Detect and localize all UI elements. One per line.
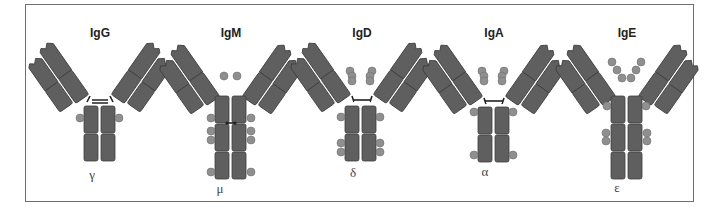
- fab-left: [23, 40, 89, 114]
- carbohydrate-beads: [478, 67, 508, 85]
- label-ige: IgE: [618, 26, 637, 40]
- fab-right: [505, 42, 571, 116]
- label-iga: IgA: [484, 26, 504, 40]
- carbohydrate-beads: [608, 58, 645, 82]
- carbohydrate-beads: [602, 102, 651, 145]
- label-igd: IgD: [352, 26, 372, 40]
- fab-left: [154, 42, 220, 116]
- carbohydrate-beads: [470, 108, 517, 159]
- fc-region: [84, 106, 115, 161]
- carbohydrate-beads: [337, 113, 384, 156]
- label-igg: IgG: [90, 26, 110, 40]
- heavy-chain-gamma: γ: [88, 167, 95, 182]
- fc-region: [611, 96, 642, 179]
- carbohydrate-bead: [76, 114, 84, 122]
- heavy-chain-delta: δ: [350, 165, 356, 180]
- antibody-igd: IgD δ: [285, 26, 439, 180]
- hinge-disulfide: [87, 96, 113, 103]
- fc-region: [215, 96, 246, 179]
- heavy-chain-alpha: α: [482, 164, 489, 179]
- fc-region: [345, 106, 376, 161]
- antibody-ige: IgE ε: [550, 26, 704, 195]
- hinge-disulfide: [484, 98, 504, 104]
- immunoglobulin-diagram: IgG γ IgM μ: [0, 0, 719, 214]
- fab-right: [242, 42, 308, 116]
- carbohydrate-beads: [346, 67, 376, 85]
- antibody-igg: IgG γ: [23, 26, 177, 182]
- antibody-igm: IgM μ: [154, 26, 308, 196]
- hinge-disulfide: [352, 96, 372, 102]
- label-igm: IgM: [221, 26, 242, 40]
- carbohydrate-bead: [220, 72, 228, 80]
- heavy-chain-epsilon: ε: [614, 180, 620, 195]
- fc-region: [478, 107, 509, 162]
- carbohydrate-bead: [233, 72, 241, 80]
- antibody-iga: IgA α: [417, 26, 571, 179]
- carbohydrate-bead: [115, 114, 123, 122]
- fab-left: [417, 42, 483, 116]
- heavy-chain-mu: μ: [217, 181, 224, 196]
